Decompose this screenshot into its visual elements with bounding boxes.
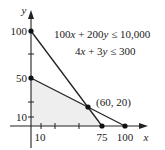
feasible-region [31,78,102,126]
feasible-region-chart: 100 50 10 10 75 100 x y (60, 20) 100x + … [0,0,165,150]
x-axis-arrow-icon [139,123,148,129]
point-0-100 [28,28,33,33]
y-tick-label-50: 50 [16,72,28,84]
point-75-0 [99,123,104,128]
point-60-20 [85,104,90,109]
y-axis-label: y [21,4,27,16]
x-axis-label: x [143,131,149,143]
constraint-annotation-1: 100x + 200y ≤ 10,000 [54,28,151,40]
x-tick-label-10: 10 [35,131,47,143]
point-100-0 [122,123,127,128]
x-tick-label-100: 100 [117,131,134,143]
constraint-annotation-2: 4x + 3y ≤ 300 [75,45,136,57]
y-tick-label-10: 10 [16,111,28,123]
y-tick-label-100: 100 [11,25,28,37]
x-tick-label-75: 75 [97,131,109,143]
point-0-50 [28,75,33,80]
y-axis-arrow-icon [28,10,34,19]
intersection-point-label: (60, 20) [96,96,131,109]
